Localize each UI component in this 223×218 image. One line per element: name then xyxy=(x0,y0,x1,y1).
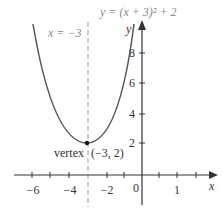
x-tick-label: 1 xyxy=(174,183,180,197)
x-axis-label: x xyxy=(208,179,215,193)
x-tick-label: −2 xyxy=(101,183,114,197)
y-axis-label: y xyxy=(125,22,132,36)
parabola-curve xyxy=(33,24,134,143)
vertex-label: vertex xyxy=(54,146,84,160)
chart-canvas: −6 −4 −2 0 1 8 6 4 2 x y y = (x + 3)² + … xyxy=(0,0,223,218)
vertex-point xyxy=(85,141,89,145)
x-tick-label: −4 xyxy=(64,183,77,197)
x-tick-label: 0 xyxy=(133,181,139,195)
y-tick-label: 6 xyxy=(129,76,135,90)
vertex-coords-label: (−3, 2) xyxy=(91,146,124,160)
x-tick-label: −6 xyxy=(27,183,40,197)
symmetry-axis-label: x = −3 xyxy=(47,26,82,40)
y-tick-label: 4 xyxy=(129,107,135,121)
x-axis-arrow-icon xyxy=(209,171,218,179)
y-axis-arrow-icon xyxy=(138,20,146,30)
equation-label: y = (x + 3)² + 2 xyxy=(99,5,177,19)
y-tick-label: 2 xyxy=(129,136,135,150)
parabola-chart: −6 −4 −2 0 1 8 6 4 2 x y y = (x + 3)² + … xyxy=(0,0,223,218)
